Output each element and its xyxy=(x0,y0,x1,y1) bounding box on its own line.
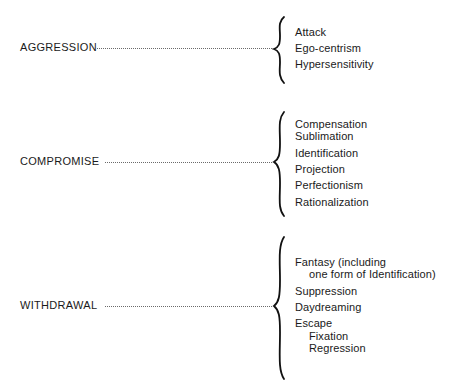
curly-brace-icon xyxy=(272,111,288,217)
list-item: Ego-centrism xyxy=(295,42,361,54)
list-item: Suppression xyxy=(295,285,357,297)
list-item: Attack xyxy=(295,26,326,38)
list-item: Compensation xyxy=(295,118,367,130)
list-item: Identification xyxy=(295,147,358,159)
category-label: COMPROMISE xyxy=(20,155,99,167)
list-item-subline: one form of Identification) xyxy=(309,268,436,280)
curly-brace-icon xyxy=(272,236,288,380)
dotted-leader xyxy=(97,48,272,49)
list-subitem: Fixation xyxy=(309,330,348,342)
list-item: Fantasy (including xyxy=(295,256,386,268)
list-subitem: Regression xyxy=(309,342,366,354)
list-item: Hypersensitivity xyxy=(295,58,374,70)
category-label: AGGRESSION xyxy=(20,41,97,53)
curly-brace-icon xyxy=(272,16,288,84)
list-item: Escape xyxy=(295,317,332,329)
list-item: Sublimation xyxy=(295,130,354,142)
dotted-leader xyxy=(105,162,272,163)
list-item: Projection xyxy=(295,163,345,175)
category-label: WITHDRAWAL xyxy=(20,299,97,311)
list-item: Daydreaming xyxy=(295,301,362,313)
dotted-leader xyxy=(105,306,272,307)
list-item: Perfectionism xyxy=(295,179,363,191)
list-item: Rationalization xyxy=(295,196,369,208)
